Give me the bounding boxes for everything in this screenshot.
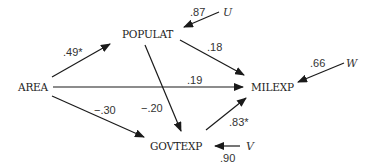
error-term-u: U (223, 6, 233, 19)
coef-v-govtexp: .90 (220, 152, 235, 164)
error-term-w: W (346, 57, 359, 70)
coef-populat-govtexp: −.20 (141, 102, 163, 114)
node-milexp: MILEXP (251, 81, 294, 93)
error-term-v: V (246, 140, 255, 153)
node-populat: POPULAT (122, 28, 173, 40)
node-govtexp: GOVTEXP (150, 140, 202, 152)
coef-w-milexp: .66 (310, 57, 325, 69)
node-area: AREA (17, 81, 49, 93)
coef-govtexp-milexp: .83* (229, 116, 249, 128)
coef-populat-milexp: .18 (207, 41, 222, 53)
coef-area-govtexp: −.30 (94, 104, 116, 116)
edge-area-govtexp (52, 96, 144, 137)
coef-area-populat: .49* (63, 46, 83, 58)
coef-area-milexp: .19 (187, 74, 202, 86)
coef-u-populat: .87 (190, 6, 205, 18)
path-diagram: AREA POPULAT MILEXP GOVTEXP U W V .49* .… (0, 0, 372, 167)
edge-populat-govtexp (145, 45, 181, 131)
